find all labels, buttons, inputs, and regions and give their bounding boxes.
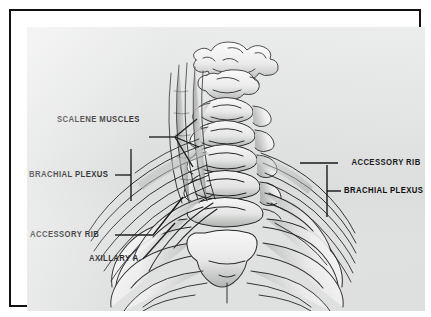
label-accessory-rib-right: ACCESSORY RIB (352, 158, 421, 167)
anatomy-illustration (27, 27, 425, 311)
label-accessory-rib-left: ACCESSORY RIB (30, 230, 99, 239)
manubrium (187, 230, 257, 303)
label-brachial-plexus-right: BRACHIAL PLEXUS (344, 186, 423, 195)
label-axillary-artery: AXILLARY A. (89, 254, 141, 263)
figure-panel: SCALENE MUSCLES ACCESSORY RIB BRACHIAL P… (0, 0, 431, 317)
illustration-plate: SCALENE MUSCLES ACCESSORY RIB BRACHIAL P… (27, 27, 425, 311)
leader-brachial-plexus-right (327, 165, 341, 217)
label-brachial-plexus-left: BRACHIAL PLEXUS (29, 170, 108, 179)
cervical-vertebra-c2 (198, 70, 259, 100)
illustration-frame: SCALENE MUSCLES ACCESSORY RIB BRACHIAL P… (9, 9, 421, 307)
label-scalene-muscles: SCALENE MUSCLES (57, 115, 140, 124)
leader-brachial-plexus-left (115, 149, 131, 201)
